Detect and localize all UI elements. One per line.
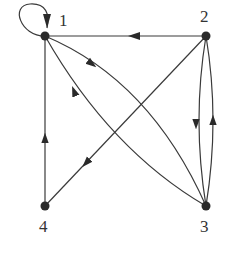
edge-2-to-1 xyxy=(45,32,206,40)
edge-3-to-2 xyxy=(206,36,213,206)
node-label-4: 4 xyxy=(39,217,48,236)
arrowhead-icon xyxy=(128,32,140,40)
arrowhead-icon xyxy=(43,14,51,28)
node-3 xyxy=(202,202,211,211)
node-label-2: 2 xyxy=(200,7,209,26)
node-1 xyxy=(41,32,50,41)
node-label-1: 1 xyxy=(59,11,68,30)
node-label-3: 3 xyxy=(200,217,209,236)
edge-1-to-1 xyxy=(19,4,51,36)
edge-2-to-4 xyxy=(45,36,206,206)
graph-canvas: 1 2 3 4 xyxy=(0,0,234,253)
node-2 xyxy=(202,32,211,41)
edge-2-to-3 xyxy=(196,36,206,206)
node-4 xyxy=(41,202,50,211)
